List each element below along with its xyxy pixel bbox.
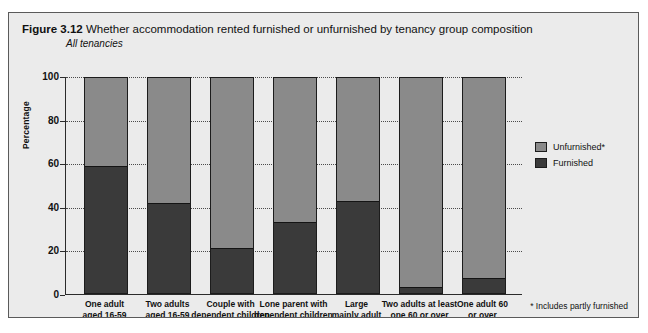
bar-segment-unfurnished[interactable] (211, 78, 253, 248)
figure-footnote: * Includes partly furnished (530, 301, 628, 311)
legend-swatch (535, 142, 547, 152)
bar-segment-unfurnished[interactable] (400, 78, 442, 287)
y-tick-label: 80 (29, 115, 59, 126)
bar-segment-unfurnished[interactable] (337, 78, 379, 201)
figure-title-line: Figure 3.12 Whether accommodation rented… (22, 22, 622, 36)
bar-column[interactable] (462, 77, 506, 294)
bar-segment-unfurnished[interactable] (148, 78, 190, 203)
legend-label: Unfurnished* (553, 142, 605, 152)
legend-label: Furnished (553, 158, 593, 168)
plot-area (65, 77, 522, 295)
bar-stack[interactable] (399, 77, 443, 294)
bar-column[interactable] (84, 77, 128, 294)
bars-layer (66, 77, 522, 294)
y-tick-label: 100 (29, 71, 59, 82)
y-tick-label: 20 (29, 245, 59, 256)
figure-panel: Figure 3.12 Whether accommodation rented… (8, 12, 639, 318)
bar-column[interactable] (273, 77, 317, 294)
bar-column[interactable] (399, 77, 443, 294)
x-tick-label: One adult 60or over (435, 299, 531, 318)
bar-segment-furnished[interactable] (85, 166, 127, 293)
bar-stack[interactable] (273, 77, 317, 294)
y-tick-mark (60, 295, 65, 296)
bar-stack[interactable] (210, 77, 254, 294)
figure-title-block: Figure 3.12 Whether accommodation rented… (22, 22, 622, 50)
bar-segment-unfurnished[interactable] (463, 78, 505, 278)
bar-segment-furnished[interactable] (211, 248, 253, 293)
bar-segment-furnished[interactable] (148, 203, 190, 293)
bar-segment-unfurnished[interactable] (274, 78, 316, 222)
bar-stack[interactable] (336, 77, 380, 294)
legend-item[interactable]: Furnished (535, 156, 605, 170)
bar-segment-furnished[interactable] (274, 222, 316, 293)
x-tick-label-line: One adult 60 (435, 299, 531, 310)
bar-column[interactable] (147, 77, 191, 294)
bar-stack[interactable] (462, 77, 506, 294)
legend-swatch (535, 158, 547, 168)
figure-title: Whether accommodation rented furnished o… (86, 23, 533, 35)
bar-column[interactable] (336, 77, 380, 294)
figure-subtitle: All tenancies (66, 38, 622, 50)
y-tick-label: 40 (29, 202, 59, 213)
legend-item[interactable]: Unfurnished* (535, 140, 605, 154)
bar-segment-furnished[interactable] (337, 201, 379, 293)
bar-segment-furnished[interactable] (463, 278, 505, 293)
x-tick-label-line: or over (435, 310, 531, 319)
bar-stack[interactable] (147, 77, 191, 294)
bar-segment-furnished[interactable] (400, 287, 442, 293)
bar-stack[interactable] (84, 77, 128, 294)
y-tick-label: 60 (29, 158, 59, 169)
bar-segment-unfurnished[interactable] (85, 78, 127, 166)
y-tick-label: 0 (29, 289, 59, 300)
bar-column[interactable] (210, 77, 254, 294)
chart-legend: Unfurnished*Furnished (535, 140, 605, 172)
figure-number: Figure 3.12 (22, 23, 83, 35)
